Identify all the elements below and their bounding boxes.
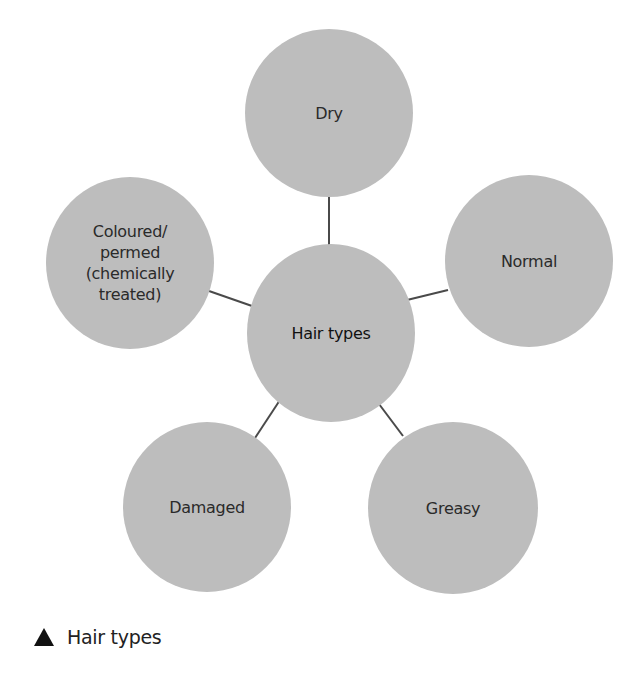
- center-label: Hair types: [291, 323, 370, 344]
- line-greasy: [376, 400, 403, 436]
- line-coloured: [209, 291, 252, 306]
- caption-text: Hair types: [67, 626, 161, 648]
- node-coloured-label: Coloured/ permed (chemically treated): [75, 221, 185, 305]
- node-dry: Dry: [245, 29, 413, 197]
- node-damaged-label: Damaged: [169, 497, 245, 518]
- node-dry-label: Dry: [315, 103, 342, 124]
- node-coloured-permed: Coloured/ permed (chemically treated): [46, 177, 214, 349]
- node-normal-label: Normal: [501, 251, 557, 272]
- node-greasy-label: Greasy: [426, 498, 480, 519]
- figure-caption: Hair types: [34, 626, 161, 648]
- node-damaged: Damaged: [123, 422, 291, 592]
- node-normal: Normal: [445, 175, 613, 347]
- line-normal: [407, 290, 448, 300]
- node-center-hair-types: Hair types: [247, 244, 415, 422]
- triangle-up-icon: [34, 628, 54, 646]
- line-damaged: [255, 400, 280, 438]
- node-greasy: Greasy: [368, 422, 538, 594]
